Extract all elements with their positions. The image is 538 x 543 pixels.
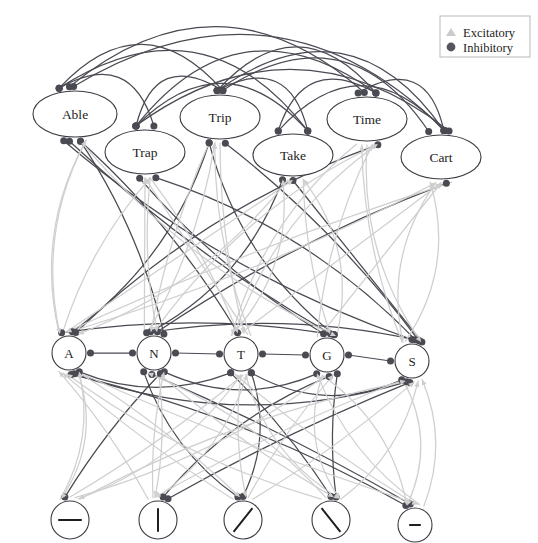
legend-inhibitory-label: Inhibitory (463, 41, 514, 55)
feature-node-f-slash[interactable] (224, 501, 262, 539)
word-node-cart[interactable]: Cart (401, 135, 481, 179)
legend: ExcitatoryInhibitory (440, 16, 530, 57)
word-node-time[interactable]: Time (327, 97, 407, 141)
feature-node-f-horizontal[interactable] (51, 501, 89, 539)
letter-node-S[interactable]: S (395, 344, 429, 378)
network-canvas: AbleTrapTripTakeTimeCart ANTGS Excitator… (0, 0, 538, 543)
feature-node-f-vertical[interactable] (139, 501, 177, 539)
word-node-trap[interactable]: Trap (105, 130, 185, 174)
excitatory-arrowhead-group (56, 140, 441, 505)
feature-node-f-backslash[interactable] (312, 501, 350, 539)
network-diagram: AbleTrapTripTakeTimeCart ANTGS Excitator… (0, 0, 538, 543)
feature-node-group (51, 501, 432, 542)
letter-node-A[interactable]: A (52, 336, 86, 370)
letter-node-T[interactable]: T (224, 337, 258, 371)
letter-node-group: ANTGS (52, 336, 429, 378)
letter-node-N[interactable]: N (137, 336, 171, 370)
word-node-take[interactable]: Take (253, 134, 333, 176)
feature-node-f-dash[interactable] (398, 508, 432, 542)
word-node-able[interactable]: Able (33, 91, 117, 137)
inhibitory-edge-group (59, 27, 449, 506)
legend-inhibitory-circle-icon (447, 43, 456, 52)
legend-excitatory-label: Excitatory (463, 26, 516, 40)
letter-node-G[interactable]: G (310, 338, 344, 372)
word-node-trip[interactable]: Trip (180, 95, 260, 139)
